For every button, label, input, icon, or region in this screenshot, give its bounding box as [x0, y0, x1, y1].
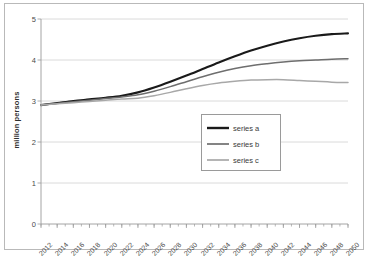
y-axis-tick-marks [38, 19, 42, 224]
legend-label-series-a: series a [233, 124, 259, 133]
legend-label-series-b: series b [233, 140, 259, 149]
legend-swatch-series-b [207, 140, 229, 148]
series-lines [41, 33, 348, 105]
legend-item-series-a: series a [207, 120, 280, 136]
line-chart-plot [0, 0, 369, 264]
legend-swatch-series-c [207, 156, 229, 164]
chart-legend: series a series b series c [201, 114, 281, 171]
legend-label-series-c: series c [233, 156, 259, 165]
legend-item-series-c: series c [207, 152, 280, 168]
legend-swatch-series-a [207, 124, 229, 132]
legend-item-series-b: series b [207, 136, 280, 152]
